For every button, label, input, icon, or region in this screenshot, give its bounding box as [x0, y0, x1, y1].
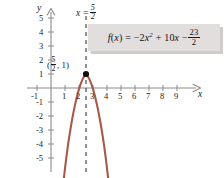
x-tick-label-6: 6 — [132, 92, 136, 101]
y-tick-label-2: 2 — [39, 56, 43, 65]
vertex-coordinate-label: (52, 1) — [47, 56, 69, 73]
y-tick-label--3: -3 — [36, 126, 43, 135]
y-tick-label--5: -5 — [36, 154, 43, 163]
x-tick-label-8: 8 — [160, 92, 164, 101]
x-tick-label-4: 4 — [104, 92, 108, 101]
y-tick-label--2: -2 — [36, 112, 43, 121]
equation-callout-box: f(x) = −2x2 + 10x −232 — [88, 24, 220, 51]
quadratic-function-graph-figure: f(x) = −2x2 + 10x −232 x =52 (52, 1) y x… — [0, 0, 224, 178]
y-tick-label--4: -4 — [36, 140, 43, 149]
x-tick-label-1: 1 — [62, 92, 66, 101]
y-tick-label-3: 3 — [39, 42, 43, 51]
x-tick-label-9: 9 — [174, 92, 178, 101]
y-tick-label--1: -1 — [36, 98, 43, 107]
x-tick-label-7: 7 — [146, 92, 150, 101]
equation-text: f(x) = −2x2 + 10x −232 — [108, 28, 200, 47]
x-axis-label: x — [198, 90, 202, 100]
y-tick-label-1: 1 — [39, 70, 43, 79]
y-axis — [47, 9, 54, 173]
axis-of-symmetry-label: x =52 — [76, 4, 96, 22]
x-tick-label-2: 2 — [76, 92, 80, 101]
x-tick-label-3: 3 — [90, 92, 94, 101]
vertex-point-marker — [83, 71, 89, 77]
x-tick-label-5: 5 — [118, 92, 122, 101]
y-tick-label-4: 4 — [39, 28, 43, 37]
y-tick-label-5: 5 — [39, 14, 43, 23]
